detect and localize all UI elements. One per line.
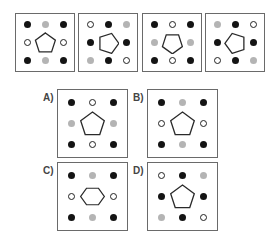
option-panel-d[interactable]: [147, 162, 218, 231]
pentagon-icon: [169, 110, 196, 137]
gray-dot: [68, 120, 75, 127]
gray-dot: [250, 57, 257, 64]
gray-dot: [158, 214, 165, 221]
sequence-panel-2: [78, 13, 138, 72]
pentagon-icon: [161, 31, 184, 54]
black-dot: [151, 57, 158, 64]
black-dot: [110, 99, 117, 106]
gray-dot: [200, 172, 207, 179]
black-dot: [105, 21, 112, 28]
black-dot: [179, 214, 186, 221]
black-dot: [105, 57, 112, 64]
white-dot: [123, 57, 130, 64]
gray-dot: [42, 57, 49, 64]
white-dot: [60, 39, 67, 46]
pentagon-icon: [34, 31, 57, 54]
black-dot: [68, 99, 75, 106]
black-dot: [250, 39, 257, 46]
gray-dot: [151, 39, 158, 46]
white-dot: [89, 99, 96, 106]
white-dot: [169, 57, 176, 64]
white-dot: [158, 172, 165, 179]
pentagon-icon: [79, 110, 106, 137]
white-dot: [24, 39, 31, 46]
gray-dot: [42, 21, 49, 28]
gray-dot: [89, 172, 96, 179]
black-dot: [179, 172, 186, 179]
white-dot: [87, 21, 94, 28]
option-panel-a[interactable]: [57, 89, 128, 158]
option-panel-b[interactable]: [147, 89, 218, 158]
white-dot: [200, 120, 207, 127]
white-dot: [250, 21, 257, 28]
black-dot: [214, 39, 221, 46]
black-dot: [60, 57, 67, 64]
sequence-panel-3: [142, 13, 202, 72]
black-dot: [232, 21, 239, 28]
black-dot: [110, 141, 117, 148]
black-dot: [60, 21, 67, 28]
black-dot: [24, 57, 31, 64]
black-dot: [151, 21, 158, 28]
option-label: B): [133, 92, 144, 103]
sequence-panel-1: [15, 13, 75, 72]
black-dot: [232, 57, 239, 64]
black-dot: [123, 39, 130, 46]
black-dot: [158, 193, 165, 200]
pentagon-icon: [224, 31, 247, 54]
option-label: D): [133, 165, 144, 176]
white-dot: [89, 141, 96, 148]
pentagon-icon: [97, 31, 120, 54]
gray-dot: [89, 214, 96, 221]
pentagon-icon: [169, 183, 196, 210]
white-dot: [68, 193, 75, 200]
gray-dot: [87, 57, 94, 64]
white-dot: [200, 214, 207, 221]
gray-dot: [123, 21, 130, 28]
option-label: A): [43, 92, 54, 103]
black-dot: [68, 172, 75, 179]
option-label: C): [43, 165, 54, 176]
black-dot: [68, 214, 75, 221]
black-dot: [110, 214, 117, 221]
black-dot: [87, 39, 94, 46]
black-dot: [187, 21, 194, 28]
black-dot: [200, 99, 207, 106]
black-dot: [24, 21, 31, 28]
gray-dot: [187, 39, 194, 46]
white-dot: [169, 21, 176, 28]
black-dot: [158, 141, 165, 148]
white-dot: [158, 120, 165, 127]
hexagon-icon: [79, 183, 106, 210]
black-dot: [200, 193, 207, 200]
black-dot: [200, 141, 207, 148]
black-dot: [187, 57, 194, 64]
white-dot: [110, 193, 117, 200]
sequence-panel-4: [205, 13, 265, 72]
black-dot: [110, 172, 117, 179]
gray-dot: [214, 21, 221, 28]
black-dot: [68, 141, 75, 148]
option-panel-c[interactable]: [57, 162, 128, 231]
black-dot: [158, 99, 165, 106]
gray-dot: [179, 99, 186, 106]
gray-dot: [110, 120, 117, 127]
white-dot: [214, 57, 221, 64]
gray-dot: [179, 141, 186, 148]
